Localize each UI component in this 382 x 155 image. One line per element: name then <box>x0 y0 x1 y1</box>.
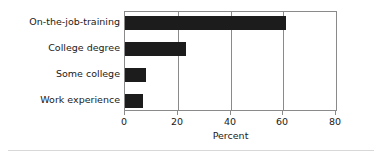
bar-fill <box>125 94 143 108</box>
bar-college-degree <box>125 42 186 56</box>
tick-label-40: 40 <box>224 116 236 128</box>
tick-mark-0 <box>124 111 125 115</box>
tick-label-0: 0 <box>121 116 127 128</box>
bar-chart-figure: On-the-job-training College degree Some … <box>0 0 382 155</box>
y-axis-category-labels: On-the-job-training College degree Some … <box>0 11 120 111</box>
tick-label-80: 80 <box>329 116 341 128</box>
category-label-college-degree: College degree <box>2 41 120 55</box>
x-axis-title: Percent <box>124 130 337 142</box>
x-axis: 0 20 40 60 80 <box>124 111 337 116</box>
bar-work-experience <box>125 94 143 108</box>
bar-on-the-job-training <box>125 16 286 30</box>
bar-fill <box>125 16 286 30</box>
tick-label-60: 60 <box>276 116 288 128</box>
tick-mark-80 <box>335 111 336 115</box>
tick-mark-60 <box>282 111 283 115</box>
category-label-work-experience: Work experience <box>2 93 120 107</box>
footer-divider <box>8 150 374 151</box>
bar-fill <box>125 42 186 56</box>
bar-fill <box>125 68 146 82</box>
category-label-on-the-job-training: On-the-job-training <box>2 15 120 29</box>
plot-area <box>124 11 337 111</box>
bar-some-college <box>125 68 146 82</box>
tick-mark-20 <box>177 111 178 115</box>
tick-mark-40 <box>230 111 231 115</box>
tick-label-20: 20 <box>171 116 183 128</box>
category-label-some-college: Some college <box>2 67 120 81</box>
